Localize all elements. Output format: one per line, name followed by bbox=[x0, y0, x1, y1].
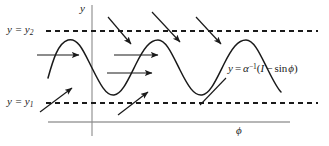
x-axis-label: ϕ bbox=[236, 124, 242, 136]
curve-equation-label: y=α−1(I−sinϕ) bbox=[228, 62, 298, 74]
equation-close-paren: ) bbox=[294, 62, 298, 74]
y-axis-label: y bbox=[80, 2, 85, 14]
equation-term-2: sin bbox=[274, 62, 287, 74]
equation-exponent: −1 bbox=[249, 62, 257, 71]
lower-asymptote-label-prefix: y = y bbox=[7, 95, 30, 107]
equation-term-1: I bbox=[261, 62, 265, 74]
upper-asymptote-label: y = y2 bbox=[7, 23, 33, 37]
lower-asymptote-label: y = y1 bbox=[7, 95, 33, 109]
upper-asymptote-label-prefix: y = y bbox=[7, 23, 30, 35]
equation-equals: = bbox=[235, 62, 241, 74]
upper-asymptote-label-subscript: 2 bbox=[30, 28, 34, 37]
equation-lhs: y bbox=[228, 62, 233, 74]
equation-minus: − bbox=[266, 62, 272, 74]
lower-asymptote-label-subscript: 1 bbox=[30, 100, 34, 109]
